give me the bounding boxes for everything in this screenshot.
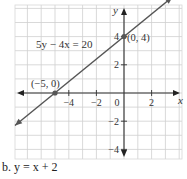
- point-label: (0, 4): [127, 32, 150, 44]
- x-tick-label: 0: [115, 97, 120, 108]
- point-marker: [52, 90, 57, 95]
- x-axis-left-arrow-icon: [17, 90, 24, 96]
- y-axis-up-arrow-icon: [121, 8, 127, 15]
- y-tick-label: 2: [114, 59, 119, 70]
- x-tick-label: −4: [63, 97, 74, 108]
- x-tick-label: −2: [91, 97, 102, 108]
- equation-label: 5y − 4x = 20: [36, 38, 93, 50]
- x-tick-label: 2: [149, 97, 154, 108]
- y-axis-down-arrow-icon: [121, 150, 127, 157]
- y-axis-label: y: [112, 4, 118, 16]
- x-axis-label: x: [177, 94, 183, 106]
- caption: b. y = x + 2: [2, 160, 58, 175]
- coordinate-plane: xy −4−20242−2−4 (0, 4)(−5, 0) 5y − 4x = …: [0, 0, 187, 160]
- point-marker: [121, 34, 126, 39]
- y-tick-label: −2: [108, 116, 119, 127]
- y-tick-label: −4: [108, 144, 119, 155]
- equation-annotation: 5y − 4x = 20: [36, 38, 93, 50]
- point-label: (−5, 0): [31, 78, 60, 90]
